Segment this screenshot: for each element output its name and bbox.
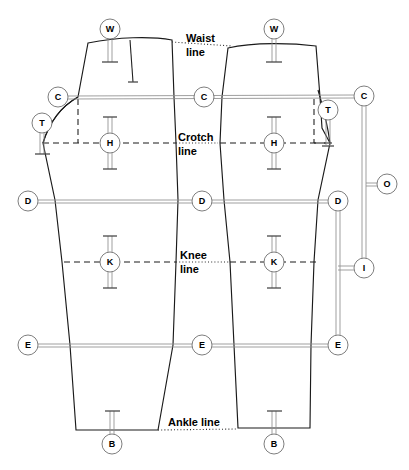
marker-letter: E [335, 340, 341, 350]
marker-letter: C [361, 91, 368, 101]
marker-letter: T [39, 118, 45, 128]
marker-e-center[interactable]: E [192, 335, 212, 355]
marker-b-right[interactable]: B [264, 434, 284, 454]
marker-t-right[interactable]: T [318, 100, 338, 120]
waist-line-label-1: Waist [186, 32, 215, 44]
marker-letter: W [270, 24, 279, 34]
knee-line-label-2: line [180, 263, 199, 275]
marker-letter: O [383, 179, 390, 189]
marker-letter: D [335, 196, 342, 206]
marker-letter: K [107, 257, 114, 267]
marker-letter: B [271, 439, 278, 449]
marker-w-left[interactable]: W [100, 19, 120, 39]
crotch-line-label-1: Crotch [178, 131, 214, 143]
marker-o-right[interactable]: O [377, 174, 397, 194]
marker-h-right[interactable]: H [264, 133, 284, 153]
marker-letter: T [325, 105, 331, 115]
marker-letter: C [55, 92, 62, 102]
waist-line-label-2: line [186, 46, 205, 58]
marker-w-right[interactable]: W [264, 19, 284, 39]
marker-letter: C [201, 92, 208, 102]
ankle-line [158, 429, 238, 430]
marker-h-left[interactable]: H [100, 133, 120, 153]
left-dart-line [130, 40, 133, 82]
marker-letter: D [25, 196, 32, 206]
marker-i-right[interactable]: I [354, 258, 374, 278]
marker-letter: K [271, 257, 278, 267]
marker-letter: H [107, 138, 114, 148]
ankle-line-label: Ankle line [168, 416, 220, 428]
pattern-diagram-svg: W W C C C T T [0, 0, 409, 470]
knee-line-label-1: Knee [180, 249, 207, 261]
marker-letter: E [199, 340, 205, 350]
marker-c-center[interactable]: C [194, 87, 214, 107]
marker-letter: D [199, 196, 206, 206]
crotch-line-label-2: line [178, 145, 197, 157]
marker-letter: E [25, 340, 31, 350]
marker-letter: I [363, 263, 366, 273]
marker-d-left[interactable]: D [18, 191, 38, 211]
marker-d-right[interactable]: D [328, 191, 348, 211]
marker-e-left[interactable]: E [18, 335, 38, 355]
pattern-diagram-canvas: W W C C C T T [0, 0, 409, 470]
marker-letter: H [271, 138, 278, 148]
marker-b-left[interactable]: B [102, 434, 122, 454]
marker-k-right[interactable]: K [264, 252, 284, 272]
marker-k-left[interactable]: K [100, 252, 120, 272]
marker-letter: B [109, 439, 116, 449]
reference-lines-group [43, 42, 332, 430]
marker-letter: W [106, 24, 115, 34]
marker-e-right[interactable]: E [328, 335, 348, 355]
marker-d-center[interactable]: D [192, 191, 212, 211]
marker-c-left[interactable]: C [48, 87, 68, 107]
marker-c-right[interactable]: C [354, 86, 374, 106]
marker-t-left[interactable]: T [32, 113, 52, 133]
